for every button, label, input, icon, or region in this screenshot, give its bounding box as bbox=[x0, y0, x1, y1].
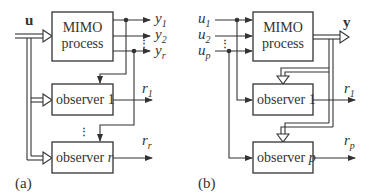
diagram-a: u MIMO process bbox=[15, 10, 167, 192]
mimo-process-block-b: MIMO process bbox=[253, 12, 313, 61]
hollow-arrow-icon bbox=[340, 31, 349, 43]
observer-p-label: observer p bbox=[257, 150, 316, 165]
observer-1-label: observer 1 bbox=[56, 92, 115, 107]
process-label-line1: MIMO bbox=[63, 20, 103, 35]
hollow-arrow-icon bbox=[43, 94, 52, 106]
residual-r1-label: r1 bbox=[142, 80, 153, 99]
process-label-line2: process bbox=[262, 36, 304, 51]
input-ellipsis: ⋮ bbox=[220, 38, 230, 49]
residual-rp-label: rp bbox=[344, 132, 355, 151]
output-labels: y1 y2 yr bbox=[153, 10, 167, 61]
observer-p-block: observer p bbox=[253, 142, 316, 173]
diagram-b: u1 u2 up ⋮ MIMO process bbox=[198, 10, 355, 192]
observer-1-block-b: observer 1 bbox=[253, 84, 316, 115]
hollow-arrow-icon bbox=[277, 134, 289, 142]
residual-r1-label: r1 bbox=[344, 80, 355, 99]
caption-b: (b) bbox=[198, 175, 216, 192]
hollow-arrow-icon bbox=[277, 76, 289, 84]
input-lines: ⋮ bbox=[215, 18, 252, 158]
caption-a: (a) bbox=[15, 175, 32, 192]
observer-r-block: observer r bbox=[52, 142, 114, 173]
hollow-arrow-icon bbox=[43, 152, 52, 164]
input-vector-label: u bbox=[25, 12, 33, 28]
observer-ellipsis: ⋮ bbox=[79, 126, 89, 137]
mimo-process-block: MIMO process bbox=[52, 12, 113, 61]
output-vector-label: y bbox=[343, 14, 351, 30]
process-label-line1: MIMO bbox=[263, 20, 303, 35]
observer-1-label: observer 1 bbox=[257, 92, 316, 107]
input-bus bbox=[15, 30, 52, 164]
hollow-arrow-icon bbox=[43, 30, 52, 42]
observer-1-block: observer 1 bbox=[52, 84, 115, 115]
observer-scheme-figure: u MIMO process bbox=[0, 0, 369, 194]
observer-r-label: observer r bbox=[56, 150, 114, 165]
residual-rr-label: rr bbox=[142, 132, 152, 151]
process-label-line2: process bbox=[62, 36, 104, 51]
output-ellipsis: ⋮ bbox=[139, 38, 149, 49]
